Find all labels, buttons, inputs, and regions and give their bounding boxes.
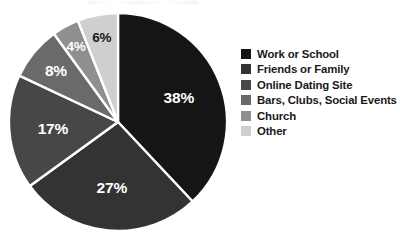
legend-color-swatch: [241, 111, 251, 121]
pie-chart: 38%27%17%8%4%6%: [0, 0, 245, 245]
legend-color-swatch: [241, 80, 251, 90]
legend-item: Work or School: [241, 46, 400, 61]
pie-slice-data-label: 8%: [45, 62, 67, 79]
legend-item: Church: [241, 108, 400, 123]
legend-color-swatch: [241, 126, 251, 136]
legend-item-label: Bars, Clubs, Social Events: [257, 94, 397, 106]
legend-color-swatch: [241, 49, 251, 59]
legend-item-label: Friends or Family: [257, 63, 349, 75]
chart-screenshot: 38%27%17%8%4%6% Work or SchoolFriends or…: [0, 0, 400, 245]
legend-color-swatch: [241, 95, 251, 105]
legend-item: Friends or Family: [241, 62, 400, 77]
pie-slice-data-label: 27%: [97, 179, 128, 196]
legend-item: Bars, Clubs, Social Events: [241, 93, 400, 108]
pie-slice-data-label: 4%: [66, 39, 85, 54]
pie-slice-data-label: 6%: [92, 30, 111, 45]
legend-item: Other: [241, 124, 400, 139]
legend-item-label: Church: [257, 110, 296, 122]
legend: Work or SchoolFriends or FamilyOnline Da…: [241, 46, 400, 140]
legend-color-swatch: [241, 64, 251, 74]
legend-item-label: Work or School: [257, 48, 339, 60]
legend-item-label: Other: [257, 125, 287, 137]
legend-item: Online Dating Site: [241, 77, 400, 92]
pie-slice-data-label: 17%: [38, 120, 69, 137]
pie-slice-data-label: 38%: [164, 89, 195, 106]
pie-chart-svg: 38%27%17%8%4%6%: [0, 0, 245, 245]
legend-item-label: Online Dating Site: [257, 79, 352, 91]
